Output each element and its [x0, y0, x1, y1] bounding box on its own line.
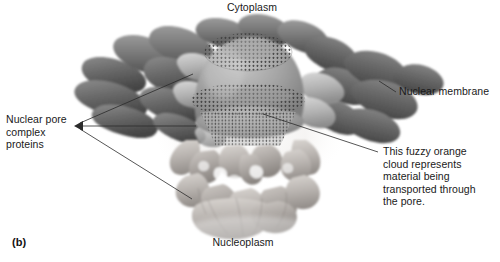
label-transport-cloud-annotation: This fuzzy orange cloud represents mater…	[383, 145, 495, 208]
label-nuclear-membrane: Nuclear membrane	[399, 85, 499, 98]
panel-label: (b)	[12, 236, 26, 249]
label-nucleoplasm: Nucleoplasm	[178, 236, 308, 249]
label-nuclear-pore-complex-proteins: Nuclear pore complex proteins	[6, 113, 78, 151]
figure-panel-b: Cytoplasm Nucleoplasm Nuclear membrane N…	[0, 0, 500, 262]
label-cytoplasm: Cytoplasm	[192, 1, 312, 14]
